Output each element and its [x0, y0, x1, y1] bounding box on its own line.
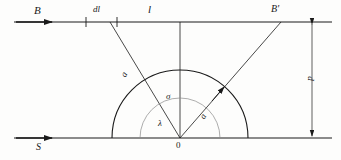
label-angle-sigma: σ	[166, 92, 170, 101]
label-field-B: B	[34, 5, 41, 16]
diagram-svg	[0, 0, 341, 160]
label-distance-l: l	[148, 4, 151, 15]
label-angle-lambda: λ	[158, 119, 162, 128]
label-field-S: S	[36, 142, 41, 152]
label-dimension-p: p	[305, 76, 314, 81]
right-oblique-ray	[180, 22, 281, 138]
label-origin: 0	[176, 141, 181, 150]
right-ray-arrowhead	[212, 87, 224, 101]
label-segment-dl: dl	[93, 5, 100, 14]
figure-canvas: B dl l B' S 0 σ λ a a p	[0, 0, 341, 160]
label-point-B-prime: B'	[271, 4, 279, 14]
